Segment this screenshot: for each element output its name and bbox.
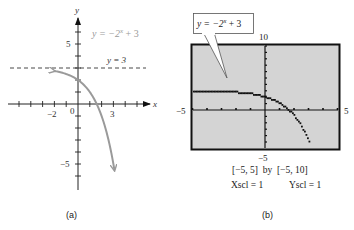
window-label-left: −5 [176, 106, 186, 116]
window-label-right: 5 [344, 106, 349, 116]
asymptote-label: y = 3 [106, 55, 127, 65]
tick-label-5: 5 [66, 39, 71, 49]
panel-a-graph [8, 18, 150, 190]
callout-label-main: y = −2 [196, 19, 224, 29]
window-range-text: [−5, 5] by [−5, 10] [232, 165, 308, 175]
curve-label-tail: + 3 [123, 28, 139, 39]
yscl-text: Yscl = 1 [289, 180, 322, 190]
caption-a: (a) [66, 210, 77, 220]
tick-label-neg2: −2 [47, 109, 57, 119]
tick-label-3: 3 [110, 109, 115, 119]
calculator-screen [192, 45, 340, 150]
curve-label: y = −2x + 3 [91, 27, 139, 39]
xscl-text: Xscl = 1 [231, 180, 264, 190]
caption-b: (b) [262, 210, 273, 220]
figure: y x y = −2x + 3 y = 3 5 −5 −2 3 0 (a) y … [0, 0, 354, 230]
callout-joint [202, 32, 215, 35]
y-axis-label: y [74, 5, 79, 15]
x-axis-label: x [152, 99, 157, 109]
callout-label: y = −2x + 3 [196, 17, 242, 29]
window-label-bottom: −5 [258, 153, 268, 163]
function-curve [54, 71, 114, 170]
window-label-top: 10 [259, 32, 269, 42]
curve-label-main: y = −2 [91, 28, 120, 39]
tick-label-neg5: −5 [60, 159, 70, 169]
origin-label: 0 [70, 106, 75, 116]
callout-label-tail: + 3 [226, 19, 241, 29]
